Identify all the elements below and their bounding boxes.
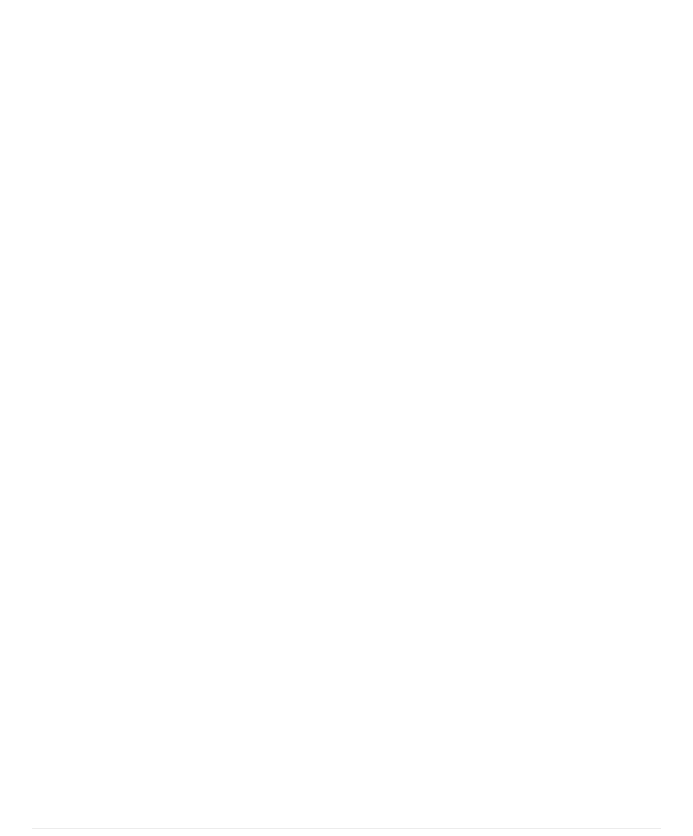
panel-e bbox=[18, 548, 358, 788]
panel-c bbox=[18, 272, 358, 500]
panel-f bbox=[355, 548, 685, 788]
footer-rule bbox=[32, 828, 661, 829]
radiocarbon-calibration-figure bbox=[0, 0, 693, 836]
panel-a bbox=[18, 28, 358, 250]
panel-b bbox=[355, 28, 685, 250]
panel-d bbox=[355, 272, 685, 500]
